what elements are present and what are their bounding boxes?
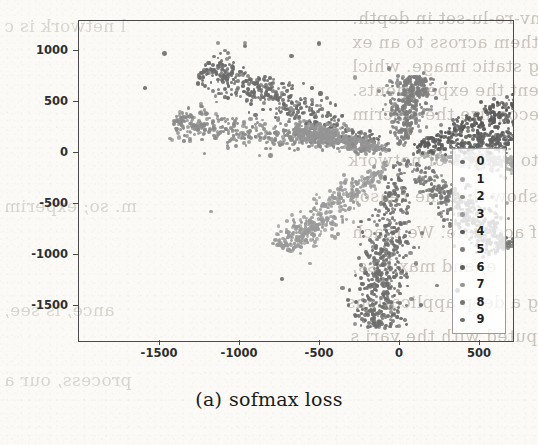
scatter-point-layer <box>79 21 513 341</box>
legend-item-label: 9 <box>477 314 485 326</box>
legend-item-label: 6 <box>477 262 485 274</box>
legend-item-8[interactable]: 8 <box>453 294 505 312</box>
legend-marker-icon <box>460 247 465 252</box>
x-axis-tick-label: 0 <box>395 346 403 360</box>
legend-marker-icon <box>460 300 465 305</box>
figure-caption: (a)sofmax loss <box>0 388 538 410</box>
x-axis-tick <box>319 340 320 345</box>
y-axis-tick <box>73 50 78 51</box>
legend-item-9[interactable]: 9 <box>453 311 505 329</box>
y-axis-tick-label: -1500 <box>31 298 68 312</box>
legend-marker-icon <box>460 177 465 182</box>
legend-marker-icon <box>460 283 465 288</box>
y-axis-tick <box>73 305 78 306</box>
legend-item-1[interactable]: 1 <box>453 171 505 189</box>
x-axis-tick <box>399 340 400 345</box>
x-axis-tick-label: -500 <box>305 346 334 360</box>
legend-item-label: 3 <box>477 209 485 221</box>
legend-item-6[interactable]: 6 <box>453 259 505 277</box>
legend-item-label: 2 <box>477 191 485 203</box>
legend-box[interactable]: 0123456789 <box>452 148 506 334</box>
legend-marker-icon <box>460 230 465 235</box>
x-axis-tick <box>239 340 240 345</box>
plot-axes-frame <box>78 20 514 342</box>
y-axis-tick <box>73 254 78 255</box>
x-axis-tick-label: 500 <box>467 346 491 360</box>
legend-item-4[interactable]: 4 <box>453 223 505 241</box>
legend-item-label: 1 <box>477 174 485 186</box>
y-axis-tick-label: 1000 <box>36 43 68 57</box>
legend-item-0[interactable]: 0 <box>453 153 505 171</box>
y-axis-tick-label: -500 <box>39 196 68 210</box>
x-axis-tick <box>159 340 160 345</box>
x-axis-tick <box>479 340 480 345</box>
legend-item-7[interactable]: 7 <box>453 276 505 294</box>
legend-marker-icon <box>460 160 465 165</box>
legend-marker-icon <box>460 195 465 200</box>
y-axis-tick <box>73 203 78 204</box>
legend-item-label: 8 <box>477 297 485 309</box>
legend-item-5[interactable]: 5 <box>453 241 505 259</box>
y-axis-tick-label: 0 <box>60 145 68 159</box>
y-axis-tick-label: -1000 <box>31 247 68 261</box>
legend-item-2[interactable]: 2 <box>453 188 505 206</box>
caption-text: sofmax loss <box>229 388 343 410</box>
legend-item-label: 0 <box>477 156 485 168</box>
y-axis-tick <box>73 152 78 153</box>
y-axis-tick-label: 500 <box>44 94 68 108</box>
y-axis-tick <box>73 101 78 102</box>
legend-marker-icon <box>460 212 465 217</box>
legend-marker-icon <box>460 318 465 323</box>
figure-softmax-loss-scatter: -1500-1000-5000500100010005000-500-1000-… <box>0 0 538 445</box>
legend-marker-icon <box>460 265 465 270</box>
caption-index: (a) <box>195 388 222 410</box>
legend-item-label: 4 <box>477 226 485 238</box>
x-axis-tick-label: -1500 <box>141 346 178 360</box>
x-axis-tick-label: -1000 <box>221 346 258 360</box>
legend-item-3[interactable]: 3 <box>453 206 505 224</box>
legend-item-label: 5 <box>477 244 485 256</box>
legend-item-label: 7 <box>477 279 485 291</box>
